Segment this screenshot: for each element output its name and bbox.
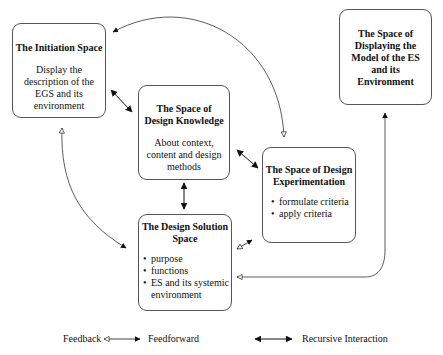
node-design-experimentation: The Space of Design Experimentation form… [262, 147, 356, 243]
node-description: About context, content and design method… [139, 137, 229, 173]
node-design-knowledge: The Space of Design Knowledge About cont… [138, 85, 230, 180]
node-description: Display the description of the EGS and i… [13, 64, 105, 112]
node-initiation-space: The Initiation Space Display the descrip… [12, 23, 106, 118]
arrow-initiation-knowledge [111, 90, 132, 112]
arrow-solution-experimentation [237, 240, 252, 249]
node-title: The Design Solution Space [139, 221, 231, 245]
node-item-list: purpose functions ES and its systemic en… [139, 253, 231, 301]
list-item: formulate criteria [271, 196, 355, 208]
arrow-knowledge-experimentation [237, 150, 258, 168]
arc-initiation-solution [62, 128, 126, 248]
legend-recursive-label: Recursive Interaction [302, 333, 388, 345]
list-item: functions [143, 265, 231, 277]
node-design-solution: The Design Solution Space purpose functi… [138, 214, 232, 311]
node-item-list: formulate criteria apply criteria [263, 196, 355, 220]
legend-feedback-label: Feedback [63, 333, 101, 345]
list-item: apply criteria [271, 208, 355, 220]
list-item: ES and its systemic environment [143, 277, 231, 301]
node-title: The Space of Design Experimentation [263, 164, 355, 188]
node-title: The Space of Displaying the Model of the… [340, 28, 431, 88]
node-title: The Space of Design Knowledge [139, 103, 229, 127]
list-item: purpose [143, 253, 231, 265]
node-title: The Initiation Space [13, 42, 105, 54]
node-displaying-model: The Space of Displaying the Model of the… [339, 9, 432, 105]
legend-feedforward-label: Feedforward [148, 333, 199, 345]
